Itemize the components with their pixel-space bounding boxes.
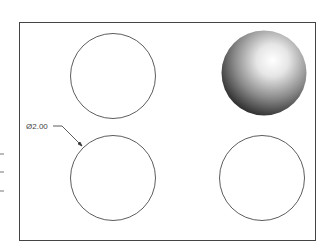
circle-bottom-left[interactable] (71, 136, 156, 221)
sphere-shaded[interactable] (222, 31, 307, 116)
circle-top-left[interactable] (71, 34, 156, 119)
dimension-label[interactable]: Ø2.00 (26, 122, 48, 131)
circle-bottom-right[interactable] (220, 136, 305, 221)
drawing-sheet: Ø2.00 (0, 0, 329, 248)
edge-tick-marks (0, 154, 4, 191)
dimension-leader (53, 126, 82, 146)
